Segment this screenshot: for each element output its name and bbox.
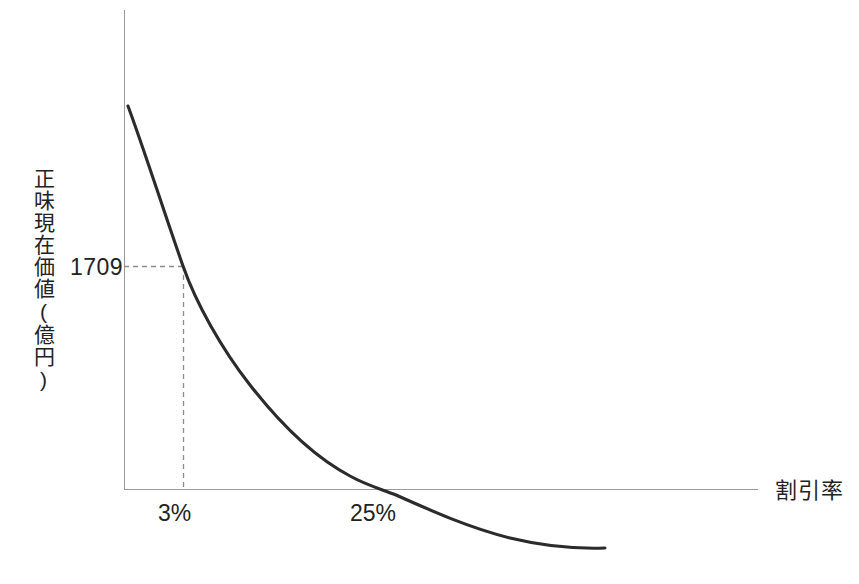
y-axis-value-label-1709: 1709 (70, 254, 123, 281)
x-axis-title: 割引率 (775, 472, 844, 504)
npv-curve-path (128, 106, 605, 548)
chart-canvas (0, 0, 859, 584)
x-axis-tick-label-3-percent: 3% (158, 500, 191, 527)
y-axis-title: 正味現在価値(億円) (31, 168, 55, 392)
x-axis-tick-label-25-percent: 25% (350, 500, 396, 527)
npv-discount-rate-chart: 1709 3% 25% 割引率 正味現在価値(億円) (0, 0, 859, 584)
